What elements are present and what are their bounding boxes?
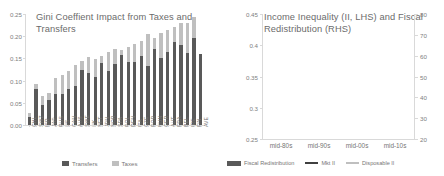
right-right-y-tick-mark [415, 139, 418, 140]
bar-segment-taxes [127, 47, 130, 61]
right-right-y-tick-label: 40 [420, 94, 427, 101]
left-bar-column [199, 54, 202, 125]
right-chart-title: Income Inequality (II, LHS) and Fiscal R… [264, 12, 424, 35]
legend-swatch-disposable-ii [346, 162, 359, 164]
right-right-y-tick-label: 80 [420, 11, 427, 18]
right-right-y-tick-label: 30 [420, 115, 427, 122]
bar-segment-taxes [94, 59, 97, 77]
left-x-tick-mark [115, 125, 116, 127]
right-left-y-tick-label: 0.4 [234, 42, 258, 49]
right-right-y-tick-label: 60 [420, 52, 427, 59]
right-left-y-tick-label: 0.45 [234, 11, 258, 18]
left-bar-column [159, 33, 162, 125]
bar-segment-taxes [61, 75, 64, 94]
left-y-tick-label: 0.00 [2, 122, 22, 129]
right-x-axis-line [262, 139, 415, 140]
left-bar-column [186, 23, 189, 125]
bar-segment-taxes [107, 52, 110, 71]
left-bar-column [179, 23, 182, 125]
bar-segment-transfers [192, 38, 195, 125]
right-right-y-tick-mark [415, 97, 418, 98]
legend-item-fiscal-redistribution: Fiscal Redistribution [227, 160, 294, 166]
left-bar-column [133, 44, 136, 125]
right-chart-panel: Income Inequality (II, LHS) and Fiscal R… [222, 0, 444, 176]
left-x-tick-mark [95, 125, 96, 127]
left-bar-column [120, 50, 123, 125]
bar-segment-taxes [173, 27, 176, 41]
right-right-y-tick-label: 50 [420, 73, 427, 80]
bar-segment-taxes [41, 96, 44, 105]
left-x-tick-mark [148, 125, 149, 127]
bar-segment-taxes [133, 44, 136, 62]
right-chart-legend: Fiscal Redistribution Mkt II Disposable … [227, 160, 394, 166]
left-x-tick-mark [201, 125, 202, 127]
bar-segment-taxes [166, 30, 169, 52]
left-x-tick-label: AVE [203, 117, 209, 127]
right-right-y-tick-mark [415, 118, 418, 119]
left-chart-panel: Gini Coeffient Impact from Taxes and Tra… [0, 0, 222, 176]
bar-segment-taxes [54, 78, 57, 94]
bar-segment-taxes [179, 23, 182, 45]
bar-segment-transfers [186, 53, 189, 125]
left-chart-legend: Transfers Taxes [62, 160, 137, 167]
left-x-tick-mark [62, 125, 63, 127]
left-y-tick-label: 0.25 [2, 11, 22, 18]
bar-segment-taxes [186, 23, 189, 53]
left-x-tick-mark [128, 125, 129, 127]
left-bar-column [100, 56, 103, 125]
left-x-tick-mark [122, 125, 123, 127]
right-right-y-tick-mark [415, 77, 418, 78]
bar-segment-taxes [100, 56, 103, 63]
right-left-y-tick-label: 0.25 [234, 136, 258, 143]
bar-segment-taxes [87, 57, 90, 73]
bar-segment-taxes [80, 61, 83, 70]
left-x-tick-mark [69, 125, 70, 127]
bar-segment-taxes [67, 71, 70, 90]
legend-label-transfers: Transfers [72, 160, 98, 167]
left-bar-column [146, 34, 149, 125]
left-bar-column [140, 41, 143, 125]
left-bar-column [153, 38, 156, 125]
left-bar-column [166, 30, 169, 125]
right-right-y-tick-mark [415, 14, 418, 15]
left-x-tick-mark [29, 125, 30, 127]
legend-label-mkt-ii: Mkt II [321, 160, 335, 166]
right-left-y-tick-label: 0.35 [234, 73, 258, 80]
left-x-tick-mark [194, 125, 195, 127]
bar-segment-taxes [47, 93, 50, 101]
left-y-tick-label: 0.20 [2, 33, 22, 40]
bar-segment-transfers [120, 55, 123, 125]
right-left-y-tick-label: 0.3 [234, 104, 258, 111]
legend-item-disposable-ii: Disposable II [346, 160, 394, 166]
left-bar-column [192, 17, 195, 125]
legend-swatch-transfers [62, 161, 69, 166]
bar-segment-taxes [153, 38, 156, 49]
right-right-axis-line [414, 14, 415, 139]
right-right-y-tick-label: 70 [420, 31, 427, 38]
bar-segment-transfers [179, 45, 182, 125]
left-x-tick-mark [174, 125, 175, 127]
legend-item-taxes: Taxes [112, 160, 138, 167]
right-right-y-tick-label: 20 [420, 136, 427, 143]
bar-segment-transfers [153, 49, 156, 125]
bar-segment-taxes [146, 34, 149, 66]
left-bar-column [113, 49, 116, 125]
legend-label-disposable-ii: Disposable II [362, 160, 394, 166]
left-x-tick-mark [155, 125, 156, 127]
left-x-tick-mark [89, 125, 90, 127]
left-x-tick-mark [168, 125, 169, 127]
left-x-tick-mark [36, 125, 37, 127]
dual-chart-figure: Gini Coeffient Impact from Taxes and Tra… [0, 0, 444, 176]
left-x-tick-mark [42, 125, 43, 127]
legend-swatch-taxes [112, 161, 119, 166]
left-x-tick-mark [188, 125, 189, 127]
left-x-tick-mark [49, 125, 50, 127]
right-x-tick-label: mid-80s [270, 142, 293, 149]
left-x-tick-mark [75, 125, 76, 127]
bar-segment-taxes [74, 65, 77, 86]
bar-segment-transfers [140, 56, 143, 125]
left-y-tick-label: 0.15 [2, 55, 22, 62]
bar-segment-transfers [173, 42, 176, 125]
bar-segment-taxes [113, 49, 116, 64]
left-bar-column [94, 59, 97, 125]
